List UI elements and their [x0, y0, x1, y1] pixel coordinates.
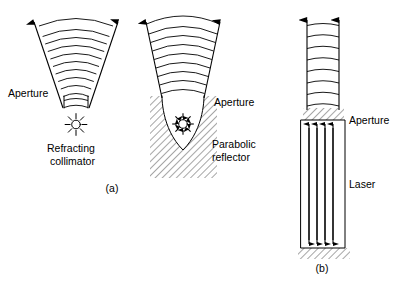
refracting-collimator-label-line2: collimator — [50, 155, 95, 167]
laser-internal-rays — [309, 124, 333, 244]
refracting-collimator-group: Aperture Refracting collimator — [8, 19, 118, 168]
laser-beam-wavefronts — [307, 24, 339, 107]
aperture-label-reflector: Aperture — [214, 96, 254, 108]
panel-b-caption: (b) — [316, 262, 329, 274]
laser-group: Aperture Laser — [297, 20, 389, 260]
parabolic-reflector-group: Aperture Parabolic reflector — [146, 16, 256, 180]
collimator-wavefronts — [39, 19, 113, 97]
aperture-label-laser: Aperture — [349, 114, 389, 126]
parabolic-reflector-label-line1: Parabolic — [212, 138, 256, 150]
laser-label: Laser — [349, 178, 376, 190]
reflector-right-edge-ray — [204, 22, 220, 98]
aperture-label-left: Aperture — [8, 87, 48, 99]
point-source-star-icon-right — [172, 113, 194, 135]
point-source-star-icon-left — [65, 114, 87, 136]
reflector-wavefronts — [147, 16, 220, 94]
technical-diagram-canvas: Aperture Refracting collimator — [0, 0, 401, 282]
figure-root: Aperture Refracting collimator — [0, 0, 401, 282]
collimator-right-edge-ray — [89, 22, 118, 108]
refracting-collimator-label-line1: Refracting — [47, 142, 95, 154]
laser-base-hatching — [297, 247, 351, 260]
collimator-aperture-wavefronts — [64, 99, 88, 108]
parabolic-reflector-hatching — [148, 94, 220, 180]
parabolic-reflector-label-line2: reflector — [212, 151, 250, 163]
panel-a-caption: (a) — [106, 182, 119, 194]
laser-aperture-hatching — [302, 107, 345, 121]
laser-body-rect — [301, 120, 345, 248]
reflector-left-edge-ray — [146, 22, 162, 98]
